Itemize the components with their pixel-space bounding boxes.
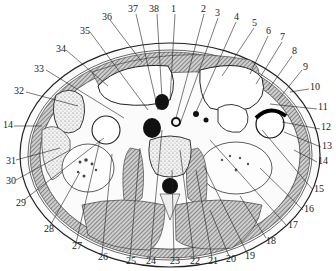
label-13: 13 <box>322 141 332 151</box>
label-22: 22 <box>190 256 200 266</box>
label-17: 17 <box>288 220 298 230</box>
label-24: 24 <box>146 256 156 266</box>
abdomen-cross-section-figure: 1 2 3 4 5 6 7 8 9 10 11 12 13 14 15 16 1… <box>0 0 336 271</box>
label-8: 8 <box>292 46 297 56</box>
label-38: 38 <box>149 4 159 14</box>
label-20: 20 <box>226 254 236 264</box>
label-15: 15 <box>314 184 324 194</box>
label-21: 21 <box>208 256 218 266</box>
label-33: 33 <box>34 64 44 74</box>
label-9: 9 <box>303 62 308 72</box>
label-25: 25 <box>126 256 136 266</box>
label-29: 29 <box>16 198 26 208</box>
label-5: 5 <box>252 18 257 28</box>
label-27: 27 <box>72 241 82 251</box>
label-36: 36 <box>102 12 112 22</box>
label-2: 2 <box>201 4 206 14</box>
label-28: 28 <box>44 224 54 234</box>
label-14-right: 14 <box>318 156 328 166</box>
label-19: 19 <box>245 251 255 261</box>
label-35: 35 <box>80 26 90 36</box>
label-32: 32 <box>14 86 24 96</box>
label-34: 34 <box>56 44 66 54</box>
label-3: 3 <box>215 8 220 18</box>
label-31: 31 <box>6 156 16 166</box>
label-26: 26 <box>98 252 108 262</box>
label-6: 6 <box>266 26 271 36</box>
label-30: 30 <box>6 176 16 186</box>
label-16: 16 <box>304 204 314 214</box>
label-23: 23 <box>170 256 180 266</box>
label-12: 12 <box>321 122 331 132</box>
label-1: 1 <box>171 4 176 14</box>
label-14-left: 14 <box>3 120 13 130</box>
label-18: 18 <box>266 236 276 246</box>
label-37: 37 <box>128 4 138 14</box>
label-10: 10 <box>310 82 320 92</box>
label-11: 11 <box>318 102 328 112</box>
label-7: 7 <box>280 32 285 42</box>
label-4: 4 <box>234 12 239 22</box>
